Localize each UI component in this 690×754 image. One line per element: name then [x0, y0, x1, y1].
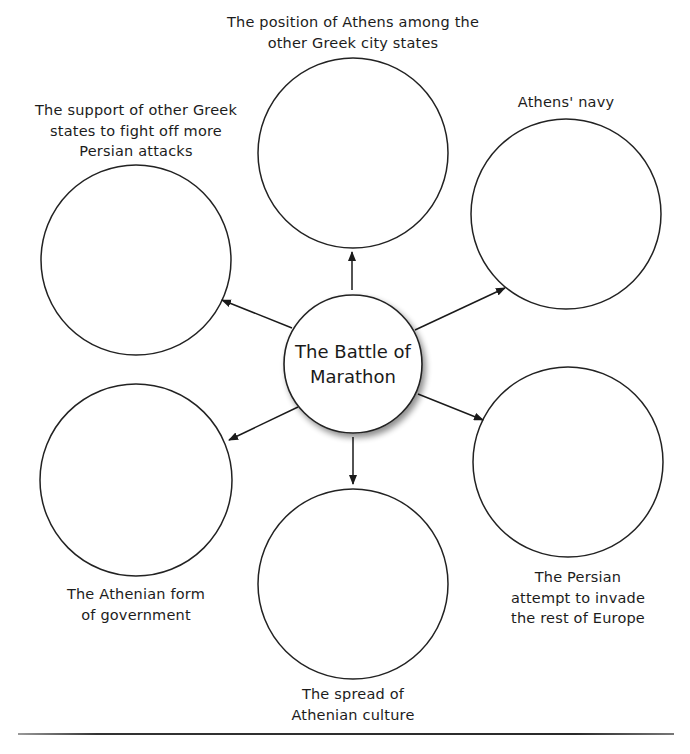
label-bottom-line-1: The spread of — [253, 684, 453, 705]
label-top-left-line-1: The support of other Greek — [11, 100, 261, 121]
label-bottom-right: The Persian attempt to invade the rest o… — [478, 567, 678, 629]
label-top-left-line-2: states to fight off more — [11, 121, 261, 142]
label-bottom-left-line-2: of government — [36, 605, 236, 626]
label-top-line-1: The position of Athens among the — [203, 12, 503, 33]
node-circle-bottom-left — [40, 384, 232, 576]
label-bottom-left-line-1: The Athenian form — [36, 584, 236, 605]
label-bottom: The spread of Athenian culture — [253, 684, 453, 725]
node-circle-bottom-right — [473, 367, 663, 557]
label-top-right-line-1: Athens' navy — [466, 92, 666, 113]
label-bottom-right-line-2: attempt to invade — [478, 588, 678, 609]
arrow-to-bottom-right — [418, 394, 483, 420]
center-topic-label: The Battle of Marathon — [284, 293, 422, 434]
center-topic-line-2: Marathon — [310, 364, 396, 389]
label-top-right: Athens' navy — [466, 92, 666, 113]
arrow-to-top-left — [222, 300, 292, 328]
label-bottom-line-2: Athenian culture — [253, 705, 453, 726]
label-top-left: The support of other Greek states to fig… — [11, 100, 261, 162]
footer-divider — [18, 733, 674, 735]
label-bottom-left: The Athenian form of government — [36, 584, 236, 625]
node-circle-top-left — [41, 165, 231, 355]
label-top: The position of Athens among the other G… — [203, 12, 503, 53]
center-topic-line-1: The Battle of — [295, 339, 411, 364]
arrow-to-top-right — [415, 288, 505, 330]
node-circle-bottom — [258, 489, 448, 679]
label-bottom-right-line-1: The Persian — [478, 567, 678, 588]
label-top-line-2: other Greek city states — [203, 33, 503, 54]
label-bottom-right-line-3: the rest of Europe — [478, 608, 678, 629]
node-circle-top-right — [471, 119, 661, 309]
label-top-left-line-3: Persian attacks — [11, 141, 261, 162]
node-circle-top — [258, 58, 448, 248]
